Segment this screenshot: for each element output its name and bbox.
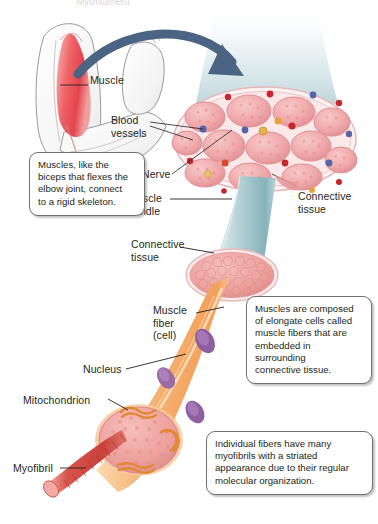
callout-myofibrils: Individual fibers have many myofibrils w… bbox=[206, 431, 373, 495]
label-muscle-fiber: Muscle fiber (cell) bbox=[153, 304, 187, 342]
label-nerve: Nerve bbox=[142, 168, 171, 181]
label-connective-tissue-right: Connective tissue bbox=[298, 190, 352, 215]
label-connective-tissue-left: Connective tissue bbox=[131, 238, 185, 263]
label-muscle: Muscle bbox=[90, 74, 124, 87]
figure-canvas: Myofilament bbox=[0, 0, 378, 524]
label-nucleus: Nucleus bbox=[83, 363, 122, 376]
label-myofibril: Myofibril bbox=[13, 462, 53, 475]
label-mitochondrion: Mitochondrion bbox=[23, 394, 90, 407]
callout-skeleton: Muscles, like the biceps that flexes the… bbox=[29, 152, 145, 216]
callout-fibers: Muscles are composed of elongate cells c… bbox=[246, 296, 372, 384]
arm-illustration bbox=[36, 24, 166, 169]
label-blood-vessels: Blood vessels bbox=[111, 114, 147, 139]
